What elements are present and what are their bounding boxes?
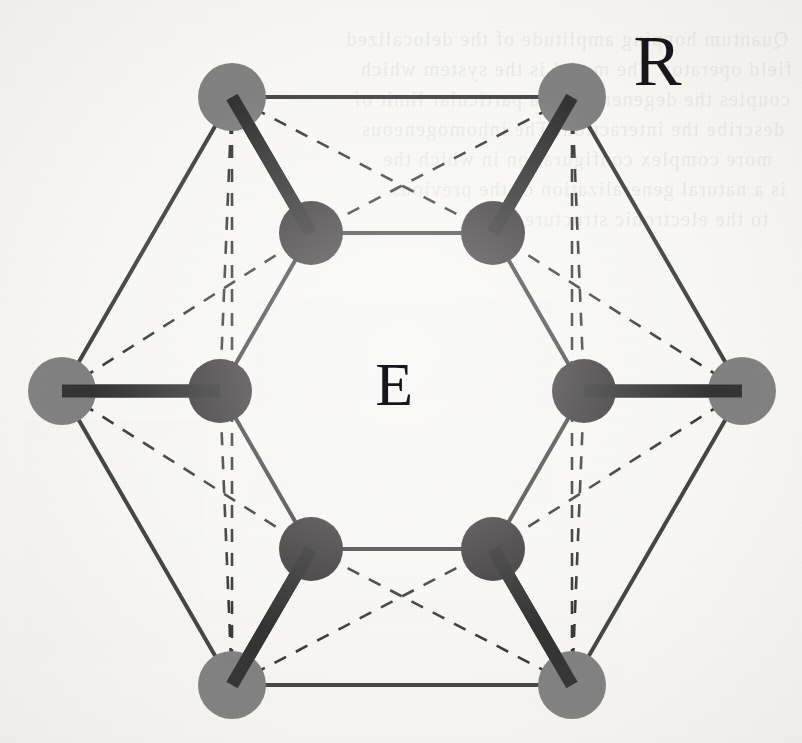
outer-hexagon-edge-R4-R5: [572, 391, 742, 685]
outer-hexagon-edge-R6-R1: [62, 391, 232, 685]
dashed-link-R4-E3: [493, 233, 742, 391]
dashed-link-R1-E2: [62, 233, 311, 391]
label-R: R: [633, 25, 681, 97]
dashed-link-R2-E1: [220, 97, 232, 391]
radial-bond-overlay-R6-E6: [232, 549, 311, 685]
dashed-link-R6-E1: [220, 391, 232, 685]
outer-hexagon-edge-R3-R4: [572, 97, 742, 391]
dashed-link-R5-E4: [572, 391, 584, 685]
radial-bond-overlay-R5-E5: [493, 549, 572, 685]
radial-bond-overlay-R2-E2: [232, 97, 311, 233]
radial-bond-overlay-R3-E3: [493, 97, 572, 233]
dashed-link-R4-E5: [493, 391, 742, 549]
dashed-link-R3-E4: [572, 97, 584, 391]
figure-canvas: Quantum hopping amplitude of the delocal…: [0, 0, 802, 743]
dashed-link-R1-E6: [62, 391, 311, 549]
label-E: E: [375, 353, 413, 415]
outer-hexagon-edge-R1-R2: [62, 97, 232, 391]
